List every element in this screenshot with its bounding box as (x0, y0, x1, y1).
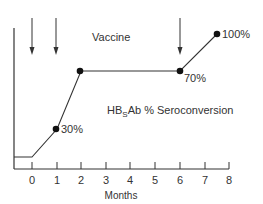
arrowhead-icon (30, 47, 35, 55)
tick-label: 4 (127, 174, 133, 186)
seroconversion-line (14, 34, 217, 157)
arrowhead-icon (54, 47, 59, 55)
x-axis-label: Months (105, 190, 138, 201)
chart: 0 1 2 3 4 5 6 7 8 Months 30% 70% 100% Va… (0, 0, 263, 204)
data-point-100 (214, 31, 221, 38)
tick-label: 1 (54, 174, 60, 186)
series-label: HBSAb % Seroconversion (107, 104, 233, 119)
x-ticks (32, 162, 229, 169)
data-point-30 (53, 126, 60, 133)
arrow-heads (30, 47, 183, 55)
tick-label: 2 (78, 174, 84, 186)
tick-label: 7 (202, 174, 208, 186)
point-label-100: 100% (222, 28, 250, 40)
point-label-30: 30% (61, 123, 83, 135)
tick-label: 0 (29, 174, 35, 186)
tick-label: 8 (226, 174, 232, 186)
tick-label: 3 (103, 174, 109, 186)
vaccine-label: Vaccine (92, 31, 130, 43)
arrowhead-icon (178, 47, 183, 55)
tick-label: 6 (177, 174, 183, 186)
tick-label: 5 (152, 174, 158, 186)
data-point-70 (177, 68, 184, 75)
point-label-70: 70% (184, 72, 206, 84)
data-point-month2 (77, 68, 84, 75)
x-tick-labels: 0 1 2 3 4 5 6 7 8 (29, 174, 232, 186)
